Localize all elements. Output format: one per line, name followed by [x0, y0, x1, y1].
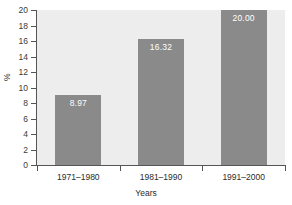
- y-axis-line: [36, 10, 37, 166]
- y-axis-tick-label: 18: [0, 22, 28, 31]
- bar: 16.32: [138, 39, 184, 165]
- y-axis-tick-label: 8: [0, 99, 28, 108]
- y-axis-tick-label: 6: [0, 115, 28, 124]
- y-axis-tick-label: 2: [0, 146, 28, 155]
- y-axis-tick-mark: [31, 134, 36, 135]
- y-axis-tick-mark: [31, 41, 36, 42]
- y-axis-tick-label-wrap: 2: [0, 150, 28, 151]
- x-axis-category-label: 1971–1980: [37, 173, 120, 182]
- y-axis-tick-label-wrap: 4: [0, 134, 28, 135]
- y-axis-tick-label: 14: [0, 53, 28, 62]
- y-axis-tick-mark: [31, 10, 36, 11]
- bar-value-label: 20.00: [221, 14, 267, 23]
- y-axis-tick-label-wrap: 16: [0, 41, 28, 42]
- bar-chart-figure: % 02468101214161820 8.9716.3220.00 1971–…: [0, 0, 292, 205]
- y-axis-tick-label-wrap: 0: [0, 165, 28, 166]
- y-axis-tick-label-wrap: 8: [0, 103, 28, 104]
- x-axis-tick-mark: [37, 166, 38, 171]
- y-axis-tick-label: 12: [0, 68, 28, 77]
- y-axis-tick-label-wrap: 10: [0, 88, 28, 89]
- y-axis-tick-label-wrap: 12: [0, 72, 28, 73]
- x-axis-tick-mark: [285, 166, 286, 171]
- y-axis-tick-label: 0: [0, 161, 28, 170]
- x-axis-category-label: 1991–2000: [202, 173, 285, 182]
- x-axis-category-label: 1981–1990: [120, 173, 203, 182]
- x-axis-tick-mark: [120, 166, 121, 171]
- x-axis-tick-mark: [202, 166, 203, 171]
- y-axis-tick-mark: [31, 57, 36, 58]
- x-axis-line: [36, 165, 286, 166]
- y-axis-tick-label-wrap: 14: [0, 57, 28, 58]
- bar: 8.97: [55, 95, 101, 165]
- y-axis-tick-mark: [31, 88, 36, 89]
- y-axis-tick-mark: [31, 150, 36, 151]
- y-axis-tick-label: 4: [0, 130, 28, 139]
- y-axis-tick-mark: [31, 72, 36, 73]
- y-axis-tick-mark: [31, 103, 36, 104]
- bar-value-label: 8.97: [55, 99, 101, 108]
- bar-value-label: 16.32: [138, 43, 184, 52]
- bar: 20.00: [221, 10, 267, 165]
- y-axis-tick-label: 16: [0, 37, 28, 46]
- x-axis-title: Years: [0, 189, 292, 198]
- y-axis-tick-label-wrap: 20: [0, 10, 28, 11]
- y-axis-tick-label: 10: [0, 84, 28, 93]
- y-axis-tick-mark: [31, 165, 36, 166]
- y-axis-tick-label-wrap: 18: [0, 26, 28, 27]
- y-axis-tick-label-wrap: 6: [0, 119, 28, 120]
- y-axis-tick-label: 20: [0, 6, 28, 15]
- y-axis-tick-mark: [31, 26, 36, 27]
- y-axis-tick-mark: [31, 119, 36, 120]
